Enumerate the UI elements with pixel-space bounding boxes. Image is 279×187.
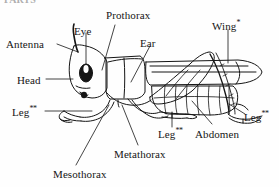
label-wing: Wing* [212, 19, 240, 32]
label-eye: Eye [74, 24, 91, 37]
label-prothorax: Prothorax [106, 8, 150, 21]
label-leg-hind-marker: ** [261, 109, 268, 118]
label-leg-hind: Leg** [244, 110, 269, 123]
pronotum-ridge [108, 59, 142, 62]
leader-mesothorax [76, 105, 109, 165]
label-leg-front-marker: ** [29, 104, 36, 113]
foreleg-tibia [64, 111, 80, 117]
label-head: Head [17, 73, 41, 86]
palp [81, 92, 87, 98]
pronotum-groove [124, 58, 125, 98]
label-antenna-text: Antenna [6, 38, 44, 50]
label-leg-front-text: Leg [12, 106, 29, 118]
leader-prothorax [102, 25, 115, 70]
label-mesothorax-text: Mesothorax [53, 168, 107, 180]
label-leg-middle-text: Leg [158, 128, 175, 140]
midleg-tibia-lower [162, 117, 187, 118]
leader-abdomen [192, 101, 212, 124]
clypeus [76, 86, 90, 88]
label-wing-text: Wing [212, 20, 236, 32]
label-ear: Ear [140, 36, 156, 49]
eye-highlight [83, 65, 88, 73]
label-leg-front: Leg** [12, 105, 37, 118]
label-abdomen: Abdomen [195, 127, 239, 140]
hindleg-tibia-edge [216, 53, 235, 114]
label-wing-marker: * [236, 18, 240, 27]
label-antenna: Antenna [6, 37, 44, 50]
label-abdomen-text: Abdomen [195, 128, 239, 140]
abdomen-lateral-line [154, 97, 234, 99]
label-leg-middle: Leg** [158, 127, 183, 140]
coxa-joint [118, 100, 119, 107]
label-ear-text: Ear [140, 37, 156, 49]
wing-tip-fold [236, 62, 240, 84]
label-head-text: Head [17, 74, 41, 86]
label-leg-middle-marker: ** [175, 126, 182, 135]
grasshopper-anatomy-diagram: PARTS [0, 0, 279, 187]
label-mesothorax: Mesothorax [53, 167, 107, 180]
label-metathorax-text: Metathorax [114, 148, 166, 160]
leader-metathorax [122, 105, 138, 145]
label-leg-hind-text: Leg [244, 111, 261, 123]
label-eye-text: Eye [74, 25, 91, 37]
label-metathorax: Metathorax [114, 147, 166, 160]
leader-ear [131, 46, 150, 82]
midleg-femur [132, 100, 168, 118]
label-prothorax-text: Prothorax [106, 9, 150, 21]
